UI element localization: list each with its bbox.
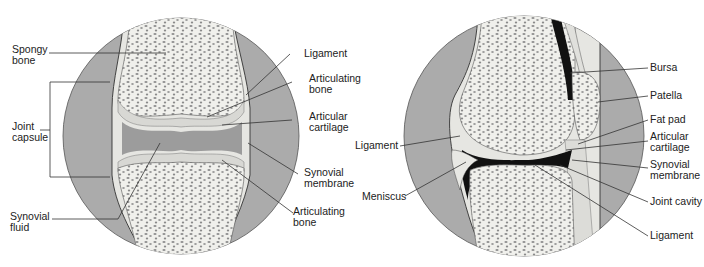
- label-articular-cartilage-left: Articular cartilage: [309, 111, 349, 133]
- right-knee-illustration: [400, 14, 648, 267]
- label-meniscus: Meniscus: [362, 191, 406, 202]
- label-ligament-left: Ligament: [304, 48, 347, 59]
- label-patella: Patella: [650, 90, 682, 101]
- label-articular-cartilage-right: Articular cartilage: [650, 131, 690, 153]
- left-joint-illustration: [40, 14, 299, 267]
- label-bursa: Bursa: [650, 62, 677, 73]
- label-joint-cavity: Joint cavity: [650, 196, 702, 207]
- label-ligament-bottom: Ligament: [650, 230, 693, 241]
- label-ligament-right: Ligament: [355, 140, 398, 151]
- label-articulating-bone-bottom: Articulating bone: [293, 206, 345, 228]
- label-articulating-bone-top: Articulating bone: [309, 73, 361, 95]
- label-spongy-bone: Spongy bone: [12, 44, 48, 66]
- label-synovial-fluid: Synovial fluid: [10, 211, 50, 233]
- label-fat-pad: Fat pad: [650, 114, 686, 125]
- label-synovial-membrane-left: Synovial membrane: [304, 167, 354, 189]
- label-joint-capsule: Joint capsule: [12, 121, 48, 143]
- joint-diagrams: [0, 0, 704, 267]
- label-synovial-membrane-right: Synovial membrane: [650, 159, 700, 181]
